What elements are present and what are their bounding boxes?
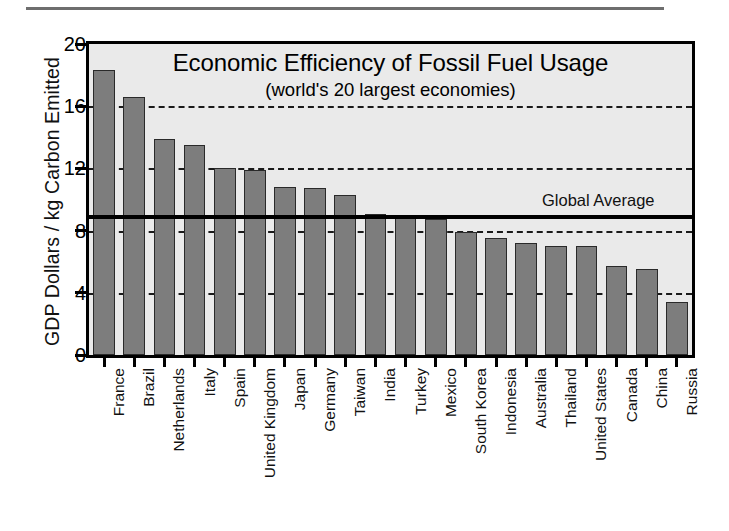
x-tick-mark-1 [133, 358, 136, 367]
bar-south-korea[interactable] [455, 232, 477, 355]
x-axis-label-russia: Russia [683, 368, 701, 415]
bar-united-states[interactable] [576, 246, 598, 355]
bar-spain[interactable] [214, 168, 236, 355]
bar-china[interactable] [636, 269, 658, 355]
x-axis-label-germany: Germany [321, 368, 339, 432]
x-tick-mark-12 [464, 358, 467, 367]
x-axis-label-united-states: United States [592, 368, 610, 461]
x-tick-mark-3 [193, 358, 196, 367]
global-average-label: Global Average [542, 191, 655, 210]
x-axis-label-thailand: Thailand [562, 368, 580, 427]
x-axis-label-italy: Italy [201, 368, 219, 396]
x-tick-mark-0 [103, 358, 106, 367]
x-tick-mark-6 [283, 358, 286, 367]
x-axis-label-spain: Spain [231, 368, 249, 408]
x-tick-mark-16 [585, 358, 588, 367]
x-axis-label-taiwan: Taiwan [351, 368, 369, 416]
x-tick-mark-19 [675, 358, 678, 367]
bar-turkey[interactable] [395, 218, 417, 355]
bar-russia[interactable] [666, 302, 688, 355]
bar-canada[interactable] [606, 266, 628, 355]
x-axis-label-india: India [381, 368, 399, 402]
x-tick-mark-7 [314, 358, 317, 367]
x-axis-label-canada: Canada [623, 368, 641, 422]
x-axis-label-netherlands: Netherlands [170, 368, 188, 452]
plot-inner: Global Average Economic Efficiency of Fo… [89, 44, 692, 355]
bar-united-kingdom[interactable] [244, 170, 266, 355]
y-tick-mark-16 [75, 105, 86, 108]
x-axis-label-mexico: Mexico [442, 368, 460, 417]
y-tick-mark-12 [75, 167, 86, 170]
x-axis-label-france: France [110, 368, 128, 416]
bar-italy[interactable] [184, 145, 206, 355]
x-axis-label-indonesia: Indonesia [502, 368, 520, 435]
bar-mexico[interactable] [425, 219, 447, 355]
x-axis-label-turkey: Turkey [412, 368, 430, 415]
x-tick-mark-5 [253, 358, 256, 367]
bar-australia[interactable] [515, 243, 537, 355]
bar-taiwan[interactable] [334, 195, 356, 355]
x-axis-label-australia: Australia [532, 368, 550, 428]
x-tick-mark-17 [615, 358, 618, 367]
x-tick-mark-8 [344, 358, 347, 367]
x-axis-label-china: China [653, 368, 671, 409]
y-tick-mark-20 [75, 43, 86, 46]
bar-indonesia[interactable] [485, 238, 507, 355]
x-axis-label-group: FranceBrazilNetherlandsItalySpainUnited … [86, 368, 695, 518]
x-tick-mark-2 [163, 358, 166, 367]
x-tick-mark-10 [404, 358, 407, 367]
x-axis-label-south-korea: South Korea [472, 368, 490, 454]
x-tick-mark-4 [223, 358, 226, 367]
x-axis-tick-group [86, 358, 695, 368]
x-tick-mark-15 [555, 358, 558, 367]
bar-netherlands[interactable] [154, 139, 176, 355]
plot-area: Global Average Economic Efficiency of Fo… [86, 41, 695, 358]
bar-brazil[interactable] [123, 97, 145, 355]
bar-thailand[interactable] [545, 246, 567, 355]
x-tick-mark-14 [525, 358, 528, 367]
x-tick-mark-11 [434, 358, 437, 367]
bar-india[interactable] [365, 214, 387, 356]
x-tick-mark-13 [495, 358, 498, 367]
bar-japan[interactable] [274, 187, 296, 355]
y-tick-mark-4 [75, 291, 86, 294]
bar-germany[interactable] [304, 188, 326, 355]
bar-france[interactable] [93, 70, 115, 355]
x-tick-mark-18 [645, 358, 648, 367]
y-tick-mark-0 [75, 354, 86, 357]
x-axis-label-japan: Japan [291, 368, 309, 410]
global-average-line [89, 215, 692, 219]
chart-figure: GDP Dollars / kg Carbon Emitted 04812162… [0, 0, 729, 531]
y-tick-mark-8 [75, 229, 86, 232]
x-axis-label-brazil: Brazil [140, 368, 158, 407]
x-tick-mark-9 [374, 358, 377, 367]
y-axis-tick-group: 048121620 [22, 41, 86, 358]
x-axis-label-united-kingdom: United Kingdom [261, 368, 279, 478]
